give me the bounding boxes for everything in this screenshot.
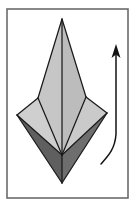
origami-figure bbox=[0, 0, 137, 213]
origami-diagram-svg bbox=[0, 0, 137, 213]
